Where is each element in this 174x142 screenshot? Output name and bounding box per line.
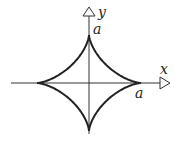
x-axis-arrow-icon <box>160 77 170 89</box>
x-axis-label: x <box>160 61 168 77</box>
astroid-diagram: y a x a <box>0 0 174 142</box>
y-axis-label: y <box>97 4 107 20</box>
y-intercept-label: a <box>93 21 101 37</box>
x-intercept-label: a <box>135 85 143 101</box>
y-axis-arrow-icon <box>83 7 95 16</box>
